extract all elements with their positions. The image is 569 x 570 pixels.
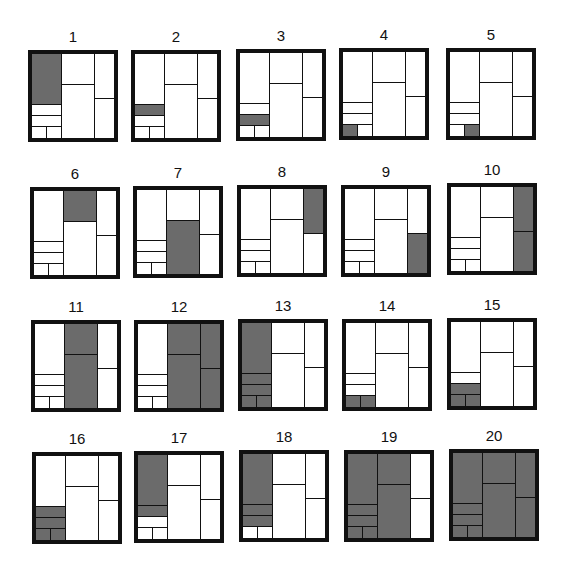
middle-bottom-cell [479, 82, 513, 137]
right-bottom-cell [407, 233, 428, 274]
left-bottom-left-cell [35, 528, 51, 541]
middle-top-cell [166, 189, 200, 221]
left-bottom-right-cell [357, 124, 373, 137]
middle-top-cell [272, 453, 306, 485]
left-bottom-right-cell [467, 525, 483, 538]
panel-number-label: 16 [32, 431, 122, 447]
left-top-cell [241, 322, 272, 374]
middle-bottom-cell [64, 354, 98, 409]
left-bottom-right-cell [257, 526, 273, 539]
right-bottom-cell [200, 368, 221, 409]
left-bottom-left-cell [34, 396, 50, 409]
middle-top-cell [63, 190, 97, 222]
panel-number-label: 15 [447, 297, 537, 313]
left-top-cell [345, 322, 376, 374]
compartment-box [131, 50, 221, 142]
left-top-cell [34, 323, 65, 375]
middle-bottom-cell [480, 217, 514, 272]
left-top-cell [31, 53, 62, 105]
left-bottom-left-cell [347, 526, 363, 539]
middle-bottom-cell [269, 83, 303, 138]
compartment-box [236, 49, 326, 141]
right-bottom-cell [199, 234, 220, 275]
left-bottom-right-cell [254, 125, 270, 138]
left-bottom-right-cell [152, 396, 168, 409]
compartment-box [133, 186, 223, 278]
left-bottom-left-cell [342, 124, 358, 137]
middle-bottom-cell [167, 485, 201, 540]
middle-top-cell [377, 453, 411, 485]
right-top-cell [408, 322, 429, 368]
middle-top-cell [164, 53, 198, 85]
right-bottom-cell [304, 367, 325, 408]
compartment-box [449, 449, 539, 541]
compartment-box [344, 450, 434, 542]
left-bottom-left-cell [136, 262, 152, 275]
left-bottom-right-cell [465, 259, 481, 272]
left-bottom-right-cell [359, 261, 375, 274]
panel-number-label: 20 [449, 428, 539, 444]
left-top-cell [242, 453, 273, 505]
left-bottom-right-cell [46, 126, 62, 139]
right-top-cell [96, 190, 117, 236]
panel-number-label: 19 [344, 429, 434, 445]
left-top-cell [35, 455, 66, 507]
middle-top-cell [372, 51, 406, 83]
middle-top-cell [167, 454, 201, 486]
middle-bottom-cell [164, 84, 198, 139]
compartment-box [31, 320, 121, 412]
middle-top-cell [480, 321, 514, 353]
left-top-cell [33, 190, 64, 242]
left-top-cell [134, 53, 165, 105]
left-bottom-right-cell [50, 528, 66, 541]
right-top-cell [304, 322, 325, 368]
left-bottom-left-cell [452, 525, 468, 538]
right-top-cell [200, 323, 221, 369]
panel-number-label: 5 [446, 27, 536, 43]
left-top-cell [240, 188, 271, 240]
compartment-box [239, 450, 329, 542]
right-bottom-cell [408, 367, 429, 408]
middle-top-cell [374, 188, 408, 220]
right-bottom-cell [200, 499, 221, 540]
middle-top-cell [167, 323, 201, 355]
right-bottom-cell [405, 96, 426, 137]
left-bottom-left-cell [449, 124, 465, 137]
compartment-box [134, 320, 224, 412]
compartment-box [28, 50, 118, 142]
right-top-cell [405, 51, 426, 97]
right-top-cell [197, 53, 218, 99]
right-top-cell [513, 321, 534, 367]
right-bottom-cell [303, 233, 324, 274]
left-bottom-left-cell [242, 526, 258, 539]
panel-number-label: 6 [30, 166, 120, 182]
left-bottom-left-cell [239, 125, 255, 138]
middle-top-cell [375, 322, 409, 354]
right-top-cell [305, 453, 326, 499]
left-bottom-right-cell [49, 396, 65, 409]
left-top-cell [450, 321, 481, 373]
left-top-cell [137, 323, 168, 375]
right-bottom-cell [96, 235, 117, 276]
left-top-cell [449, 51, 480, 103]
panel-number-label: 1 [28, 29, 118, 45]
left-bottom-left-cell [344, 261, 360, 274]
panel-number-label: 12 [134, 299, 224, 315]
panel-number-label: 4 [339, 27, 429, 43]
right-top-cell [97, 323, 118, 369]
right-top-cell [410, 453, 431, 499]
middle-bottom-cell [374, 219, 408, 274]
middle-top-cell [480, 186, 514, 218]
middle-bottom-cell [166, 220, 200, 275]
right-top-cell [512, 51, 533, 97]
compartment-box [30, 187, 120, 279]
middle-bottom-cell [377, 484, 411, 539]
panel-number-label: 8 [237, 164, 327, 180]
panel-number-label: 14 [342, 298, 432, 314]
panel-number-label: 13 [238, 298, 328, 314]
compartment-box [341, 185, 431, 277]
left-bottom-right-cell [149, 126, 165, 139]
middle-bottom-cell [61, 84, 95, 139]
compartment-box [447, 318, 537, 410]
panel-number-label: 3 [236, 28, 326, 44]
